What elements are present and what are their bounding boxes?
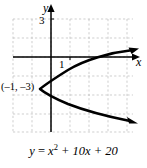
axes	[13, 8, 137, 132]
vertex-coordinate-label: (–1, –3)	[1, 82, 34, 93]
curve-upper-arrowhead	[129, 48, 140, 55]
x-tick-label-1: 1	[59, 59, 65, 70]
equation-caption: y = x2 + 10x + 20	[0, 143, 147, 158]
coordinate-plot	[0, 0, 147, 140]
grid-lines	[13, 19, 133, 132]
x-axis-label: x	[136, 56, 141, 68]
parabola-figure: y x 3 1 (–1, –3) y = x2 + 10x + 20	[0, 0, 147, 168]
y-tick-label-3: 3	[39, 15, 45, 26]
equation-remainder: + 10x + 20	[58, 144, 118, 158]
y-axis-arrowhead	[47, 4, 54, 12]
curve-lower-arrowhead	[127, 117, 138, 124]
y-axis-label: y	[43, 2, 48, 14]
parabola-curve	[40, 50, 133, 121]
axis-ticks	[51, 19, 70, 60]
equation-equals: =	[35, 144, 48, 158]
